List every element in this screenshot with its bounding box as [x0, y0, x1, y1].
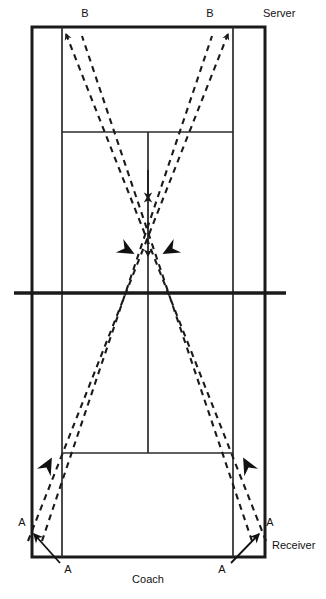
coach-feed-arrows [34, 534, 259, 563]
mid-right-marker [245, 461, 259, 487]
label-a-left-inner: A [64, 564, 71, 575]
court-svg [0, 0, 326, 599]
coach-feed-arrow-left [34, 534, 60, 563]
rally-path-right-to-topleft-inner [82, 36, 252, 541]
rally-paths [28, 34, 266, 541]
tennis-court-diagram: B B Server A A A A Receiver Coach [0, 0, 326, 599]
center-marker-left [109, 240, 131, 252]
center-marker-right [166, 240, 188, 252]
label-b-right: B [206, 8, 213, 19]
label-a-right-inner: A [218, 564, 225, 575]
label-b-left: B [81, 8, 88, 19]
label-coach: Coach [132, 574, 164, 585]
coach-feed-arrow-right [231, 534, 259, 563]
mid-left-marker [36, 461, 50, 487]
label-receiver: Receiver [272, 540, 315, 551]
label-server: Server [263, 8, 295, 19]
court-lines [14, 27, 286, 557]
rally-path-left-to-topright-inner [42, 36, 212, 541]
label-a-right-outer: A [266, 517, 273, 528]
label-a-left-outer: A [18, 517, 25, 528]
